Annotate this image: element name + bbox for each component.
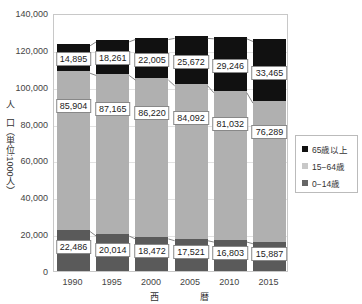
- legend-item-65plus: 65歳以上: [302, 143, 348, 155]
- bar-1995: 20,01487,16518,261: [96, 40, 129, 271]
- data-label: 14,895: [56, 52, 92, 66]
- data-label: 87,165: [95, 102, 131, 116]
- data-label: 29,246: [212, 59, 248, 73]
- bar-segment: 16,803: [214, 240, 247, 271]
- bar-segment: 76,289: [253, 101, 286, 242]
- legend-item-15-64: 15−64歳: [302, 160, 345, 172]
- bar-segment: 84,092: [175, 84, 208, 239]
- data-label: 76,289: [252, 125, 288, 139]
- data-label: 25,672: [173, 55, 209, 69]
- bar-segment: 87,165: [96, 74, 129, 235]
- x-tick-label: 2005: [180, 277, 200, 287]
- bar-segment: 22,005: [135, 38, 168, 79]
- bar-segment: 33,465: [253, 39, 286, 101]
- data-label: 81,032: [212, 117, 248, 131]
- legend-swatch-icon: [302, 163, 308, 169]
- data-label: 84,092: [173, 111, 209, 125]
- x-tick-label: 2015: [258, 277, 278, 287]
- y-axis-label: 人 口（単位:1000人）: [5, 100, 17, 195]
- bar-segment: 20,014: [96, 234, 129, 271]
- data-label: 85,904: [56, 99, 92, 113]
- legend-label: 0−14歳: [312, 177, 340, 189]
- x-tick-label: 2010: [219, 277, 239, 287]
- bar-segment: 14,895: [57, 44, 90, 71]
- legend-label: 65歳以上: [312, 143, 348, 155]
- data-label: 86,220: [134, 106, 170, 120]
- bar-segment: 17,521: [175, 239, 208, 271]
- bar-segment: 18,261: [96, 40, 129, 74]
- y-tick-label: 40,000: [20, 193, 48, 203]
- data-label: 22,486: [56, 240, 92, 254]
- x-axis-label: 西 暦: [150, 290, 225, 303]
- bar-segment: 22,486: [57, 230, 90, 271]
- legend-label: 15−64歳: [312, 160, 345, 172]
- bar-2000: 18,47286,22022,005: [135, 38, 168, 271]
- legend-item-0-14: 0−14歳: [302, 177, 340, 189]
- bar-segment: 29,246: [214, 37, 247, 91]
- y-tick-label: 120,000: [15, 46, 48, 56]
- bar-segment: 86,220: [135, 78, 168, 237]
- bar-2015: 15,88776,28933,465: [253, 39, 286, 271]
- bar-2010: 16,80381,03229,246: [214, 37, 247, 271]
- x-tick-label: 1995: [102, 277, 122, 287]
- x-tick-label: 1990: [63, 277, 83, 287]
- legend-swatch-icon: [302, 180, 308, 186]
- y-tick-label: 140,000: [15, 9, 48, 19]
- data-label: 16,803: [212, 246, 248, 260]
- bar-segment: 18,472: [135, 237, 168, 271]
- data-label: 18,472: [134, 244, 170, 258]
- data-label: 33,465: [252, 66, 288, 80]
- y-tick-label: 0: [43, 267, 48, 277]
- y-tick-label: 20,000: [20, 230, 48, 240]
- plot-area: 22,48685,90414,89520,01487,16518,26118,4…: [53, 14, 288, 272]
- bar-segment: 85,904: [57, 71, 90, 229]
- bar-2005: 17,52184,09225,672: [175, 36, 208, 271]
- data-label: 18,261: [95, 51, 131, 65]
- data-label: 15,887: [252, 247, 288, 261]
- bar-segment: 81,032: [214, 91, 247, 240]
- data-label: 20,014: [95, 243, 131, 257]
- legend-swatch-icon: [302, 146, 308, 152]
- x-tick-label: 2000: [141, 277, 161, 287]
- data-label: 22,005: [134, 53, 170, 67]
- bar-segment: 25,672: [175, 36, 208, 83]
- legend: 65歳以上 15−64歳 0−14歳: [295, 135, 358, 193]
- data-label: 17,521: [173, 245, 209, 259]
- y-tick-label: 60,000: [20, 156, 48, 166]
- y-tick-label: 100,000: [15, 83, 48, 93]
- y-tick-label: 80,000: [20, 120, 48, 130]
- bar-segment: 15,887: [253, 242, 286, 271]
- bar-1990: 22,48685,90414,895: [57, 44, 90, 271]
